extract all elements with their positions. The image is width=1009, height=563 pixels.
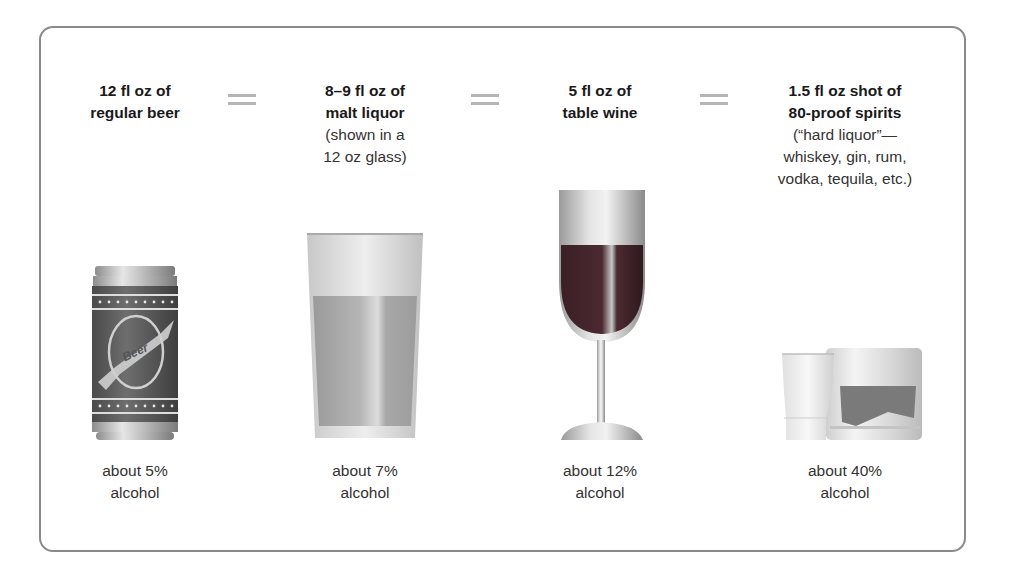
beer-title-line-1: 12 fl oz of	[60, 80, 210, 102]
beer-pct-line-2: alcohol	[55, 482, 215, 504]
equals-sign	[700, 94, 728, 106]
spirits-alcohol-percent: about 40% alcohol	[765, 460, 925, 504]
beer-pct-line-1: about 5%	[55, 460, 215, 482]
spirits-sub-line-2: whiskey, gin, rum,	[745, 146, 945, 168]
malt-title-line-2: malt liquor	[280, 102, 450, 124]
malt-sub-line-1: (shown in a	[280, 124, 450, 146]
equals-sign	[471, 94, 499, 106]
spirits-sub-line-3: vodka, tequila, etc.)	[745, 168, 945, 190]
wine-alcohol-percent: about 12% alcohol	[520, 460, 680, 504]
wine-pct-line-1: about 12%	[520, 460, 680, 482]
malt-title-line-1: 8–9 fl oz of	[280, 80, 450, 102]
malt-pct-line-1: about 7%	[285, 460, 445, 482]
spirits-pct-line-2: alcohol	[765, 482, 925, 504]
pint-glass-icon	[305, 230, 425, 442]
equals-sign	[228, 94, 256, 106]
spirits-heading: 1.5 fl oz shot of 80-proof spirits (“har…	[745, 80, 945, 190]
wine-glass-icon	[557, 190, 647, 442]
wine-title-line-2: table wine	[520, 102, 680, 124]
beer-title-line-2: regular beer	[60, 102, 210, 124]
spirits-title-line-1: 1.5 fl oz shot of	[745, 80, 945, 102]
beer-can-icon: Beer	[90, 264, 180, 444]
malt-sub-line-2: 12 oz glass)	[280, 146, 450, 168]
malt-pct-line-2: alcohol	[285, 482, 445, 504]
beer-alcohol-percent: about 5% alcohol	[55, 460, 215, 504]
malt-liquor-heading: 8–9 fl oz of malt liquor (shown in a 12 …	[280, 80, 450, 168]
spirits-pct-line-1: about 40%	[765, 460, 925, 482]
wine-pct-line-2: alcohol	[520, 482, 680, 504]
spirits-title-line-2: 80-proof spirits	[745, 102, 945, 124]
spirits-sub-line-1: (“hard liquor”—	[745, 124, 945, 146]
wine-heading: 5 fl oz of table wine	[520, 80, 680, 124]
beer-heading: 12 fl oz of regular beer	[60, 80, 210, 124]
wine-title-line-1: 5 fl oz of	[520, 80, 680, 102]
malt-alcohol-percent: about 7% alcohol	[285, 460, 445, 504]
shot-and-rocks-glass-icon	[776, 348, 926, 443]
